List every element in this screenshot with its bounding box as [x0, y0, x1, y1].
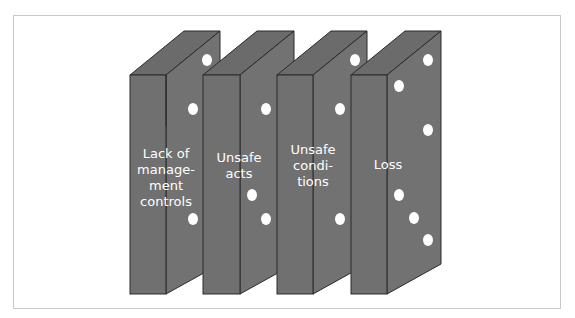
pip — [202, 54, 212, 66]
pip — [350, 54, 360, 66]
pip — [394, 80, 404, 92]
pip — [261, 103, 271, 115]
pip — [247, 189, 257, 201]
pip — [188, 103, 198, 115]
pip — [423, 234, 433, 246]
label-loss: Loss — [351, 157, 425, 173]
pip — [423, 54, 433, 66]
pip — [423, 124, 433, 136]
pip — [409, 212, 419, 224]
label-unsafe-conditions: Unsafe condi- tions — [276, 142, 350, 190]
pip — [335, 213, 345, 225]
label-unsafe-acts: Unsafe acts — [202, 150, 276, 182]
pip — [394, 189, 404, 201]
pip — [261, 213, 271, 225]
pip — [335, 103, 345, 115]
label-lack-of-management-controls: Lack of manage- ment controls — [129, 146, 203, 210]
pip — [188, 213, 198, 225]
